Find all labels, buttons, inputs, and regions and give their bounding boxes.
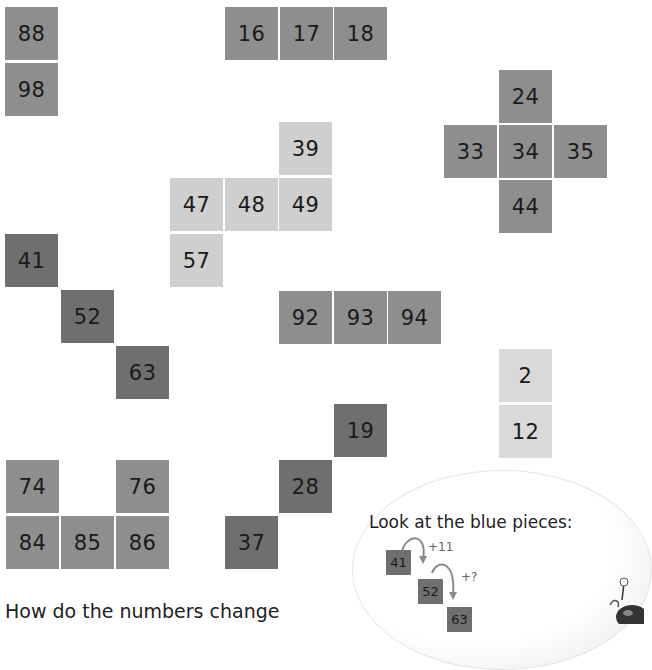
example-tile: 52 (418, 579, 443, 604)
step-label: +11 (428, 540, 453, 554)
example-tile: 63 (447, 607, 472, 632)
question-text: How do the numbers change (5, 600, 279, 622)
bug-character-icon (600, 575, 644, 624)
example-tile: 41 (386, 550, 411, 575)
step-label: +? (461, 570, 477, 584)
